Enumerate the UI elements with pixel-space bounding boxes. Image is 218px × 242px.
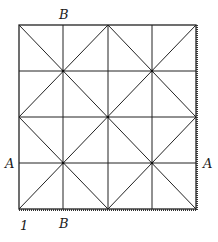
fold-diagram <box>0 0 218 242</box>
label-a-left: A <box>5 157 14 170</box>
label-a-right: A <box>203 157 212 170</box>
label-b-bottom: B <box>59 217 69 230</box>
label-corner-1: 1 <box>20 219 28 232</box>
label-b-top: B <box>59 8 69 21</box>
